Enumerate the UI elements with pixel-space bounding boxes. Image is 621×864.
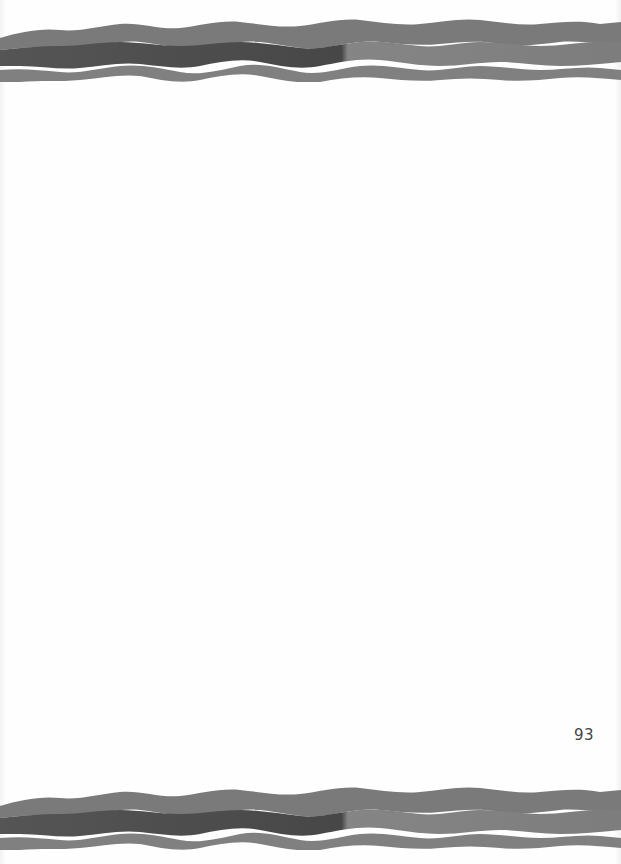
wavy-border-graphic <box>0 12 621 82</box>
top-wavy-border <box>0 12 621 82</box>
book-page: 93 <box>0 0 621 864</box>
wavy-border-graphic <box>0 780 621 850</box>
page-edge-left <box>0 0 6 864</box>
page-edge-right <box>615 0 621 864</box>
page-number: 93 <box>574 726 594 744</box>
bottom-wavy-border <box>0 780 621 850</box>
